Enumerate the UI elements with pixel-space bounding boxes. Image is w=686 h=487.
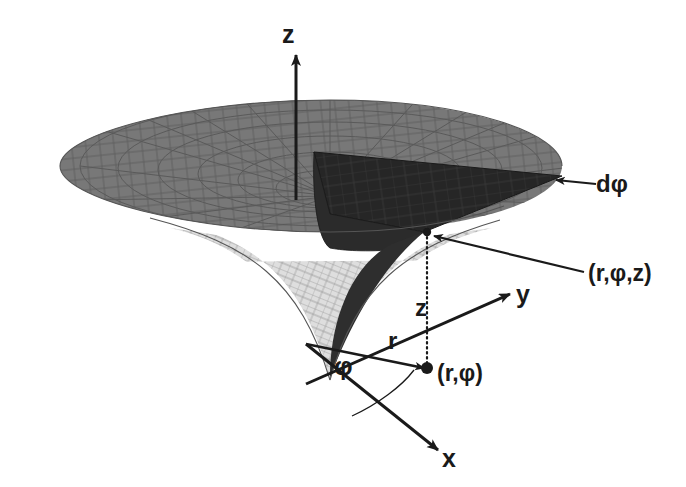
point-3d-leader	[434, 236, 584, 272]
dphi-leader	[556, 180, 596, 184]
angle-element-label: dφ	[596, 172, 628, 196]
azimuth-angle-label: φ	[334, 353, 353, 379]
z-axis-label: z	[282, 22, 295, 47]
point-3d-marker	[423, 228, 431, 236]
x-axis-line	[306, 344, 438, 450]
radius-label: r	[388, 329, 397, 353]
point-3d-label: (r,φ,z)	[588, 262, 652, 285]
disk-top-face	[40, 90, 580, 240]
height-label: z	[415, 296, 427, 320]
horn-surface	[40, 90, 580, 380]
x-axis-label: x	[442, 446, 456, 471]
y-axis-label: y	[516, 282, 530, 307]
point-projection-marker	[421, 362, 433, 374]
phi-arc	[352, 370, 414, 416]
coordinate-diagram	[0, 0, 686, 487]
point-projection-label: (r,φ)	[437, 362, 483, 385]
